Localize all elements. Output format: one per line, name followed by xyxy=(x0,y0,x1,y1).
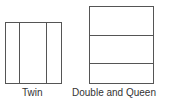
double-queen-divider-top xyxy=(89,35,154,36)
double-queen-label: Double and Queen xyxy=(72,87,156,98)
twin-divider-left xyxy=(19,22,20,84)
twin-label: Twin xyxy=(22,87,43,98)
twin-outline xyxy=(5,22,62,84)
double-queen-outline xyxy=(89,6,154,84)
twin-divider-right xyxy=(46,22,47,84)
double-queen-divider-bottom xyxy=(89,63,154,64)
